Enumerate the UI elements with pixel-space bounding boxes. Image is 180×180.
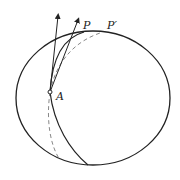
label-p: P — [83, 20, 90, 31]
ellipse-outline — [16, 31, 170, 165]
label-a: A — [56, 91, 64, 102]
label-p-prime: P′ — [107, 20, 117, 31]
point-a-marker — [48, 90, 52, 94]
diagram-canvas: A P P′ — [0, 0, 180, 180]
